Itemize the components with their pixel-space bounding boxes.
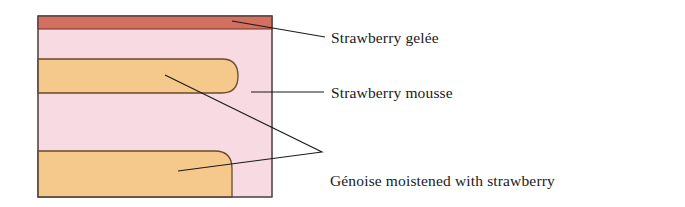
layer-genoise-bottom [38, 151, 232, 197]
layer-genoise-top [38, 59, 238, 93]
label-strawberry-mousse: Strawberry mousse [331, 83, 453, 102]
label-genoise-line-1: Génoise moistened with strawberry [330, 171, 555, 190]
layer-strawberry-gelee [38, 16, 272, 29]
label-strawberry-gelee: Strawberry gelée [331, 28, 439, 47]
label-genoise: Génoise moistened with strawberry simple… [330, 133, 555, 207]
